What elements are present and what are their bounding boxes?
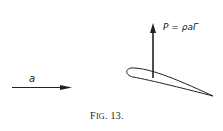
lift-label: P = ρaΓ bbox=[163, 23, 198, 32]
velocity-arrow bbox=[12, 85, 72, 90]
caption-smallcaps: IG bbox=[96, 112, 105, 121]
figure-caption: FIG. 13. bbox=[90, 111, 124, 121]
airfoil bbox=[127, 68, 213, 96]
caption-suffix: . 13. bbox=[105, 110, 124, 121]
lift-arrow bbox=[150, 23, 156, 78]
velocity-label: a bbox=[29, 74, 35, 84]
figure-13: a P = ρaΓ FIG. 13. bbox=[0, 0, 223, 131]
